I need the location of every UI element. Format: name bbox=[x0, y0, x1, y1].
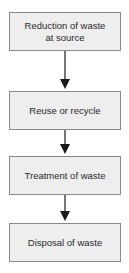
arrowhead-icon bbox=[60, 144, 70, 154]
arrow-3-to-4 bbox=[60, 195, 70, 221]
arrowhead-icon bbox=[60, 211, 70, 221]
arrowhead-icon bbox=[60, 79, 70, 89]
arrows-layer bbox=[0, 0, 129, 273]
arrow-2-to-3 bbox=[60, 130, 70, 154]
arrow-1-to-2 bbox=[60, 51, 70, 89]
